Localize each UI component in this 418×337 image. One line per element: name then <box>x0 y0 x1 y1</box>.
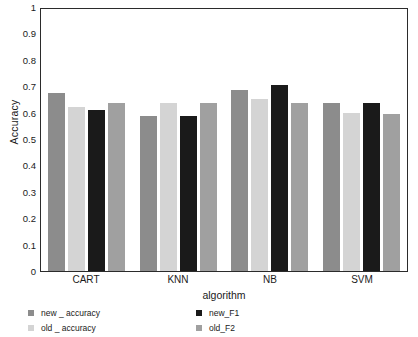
bar-chart-figure: Accuracy 10.90.80.70.60.50.40.30.20.10 C… <box>0 0 418 337</box>
legend-item: old _ accuracy <box>28 321 196 334</box>
y-axis-tick-label: 0.5 <box>4 135 36 145</box>
bar <box>251 99 268 271</box>
y-axis-tick-label: 0.8 <box>4 56 36 66</box>
legend-item: new_F1 <box>196 306 364 319</box>
x-axis-tick-label: CART <box>40 274 132 285</box>
bar-group <box>41 9 133 271</box>
legend-label: old_F2 <box>209 323 235 333</box>
legend-swatch-icon <box>196 325 202 331</box>
chart-legend: new _ accuracynew_F1old _ accuracyold_F2 <box>28 306 388 334</box>
legend-label: new _ accuracy <box>41 308 100 318</box>
y-axis-tick-label: 0.4 <box>4 162 36 172</box>
x-axis-tick-label: SVM <box>316 274 408 285</box>
x-axis-tick-labels: CARTKNNNBSVM <box>40 274 408 285</box>
bar <box>291 103 308 271</box>
bar-group <box>224 9 316 271</box>
bar <box>180 116 197 271</box>
bar-group-bars <box>224 9 316 271</box>
plot-inner <box>41 9 407 271</box>
y-axis-tick-label: 1 <box>4 3 36 13</box>
bar <box>343 113 360 272</box>
x-axis-tick-label: NB <box>224 274 316 285</box>
bar <box>48 93 65 271</box>
bar-group <box>133 9 225 271</box>
legend-swatch-icon <box>28 310 34 316</box>
y-axis-tick-label: 0.7 <box>4 82 36 92</box>
bar <box>363 103 380 271</box>
bar <box>200 103 217 271</box>
bar <box>108 103 125 271</box>
bar-group-bars <box>133 9 225 271</box>
bar <box>231 90 248 271</box>
x-axis-tick-label: KNN <box>132 274 224 285</box>
y-axis-tick-label: 0.1 <box>4 241 36 251</box>
y-axis-tick-label: 0.2 <box>4 214 36 224</box>
x-axis-title: algorithm <box>40 289 408 301</box>
bar <box>88 110 105 271</box>
y-axis-tick-label: 0.9 <box>4 30 36 40</box>
bar-group <box>316 9 408 271</box>
legend-label: old _ accuracy <box>41 323 96 333</box>
y-axis-tick-label: 0.3 <box>4 188 36 198</box>
legend-item: old_F2 <box>196 321 364 334</box>
bar-group-bars <box>316 9 408 271</box>
legend-swatch-icon <box>196 310 202 316</box>
bar <box>160 103 177 271</box>
bar <box>383 114 400 271</box>
legend-label: new_F1 <box>209 308 239 318</box>
y-axis-tick-label: 0 <box>4 267 36 277</box>
bar-group-bars <box>41 9 133 271</box>
bar <box>140 116 157 271</box>
legend-swatch-icon <box>28 325 34 331</box>
y-axis-tick-labels: 10.90.80.70.60.50.40.30.20.10 <box>0 8 36 272</box>
legend-item: new _ accuracy <box>28 306 196 319</box>
bar <box>68 107 85 271</box>
bar <box>323 103 340 271</box>
bar <box>271 85 288 271</box>
bar-groups <box>41 9 407 271</box>
y-axis-tick-label: 0.6 <box>4 109 36 119</box>
plot-area <box>40 8 408 272</box>
